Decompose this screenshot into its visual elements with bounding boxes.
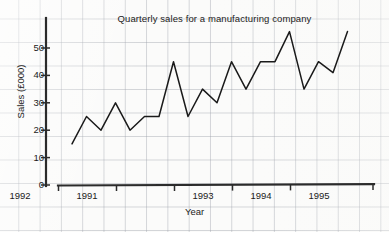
sales-line-series — [72, 32, 348, 144]
chart-page: Quarterly sales for a manufacturing comp… — [0, 0, 389, 232]
chart-plot-area — [0, 0, 389, 232]
x-axis-line — [58, 184, 374, 185]
